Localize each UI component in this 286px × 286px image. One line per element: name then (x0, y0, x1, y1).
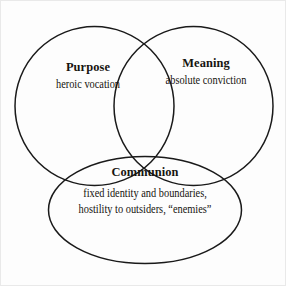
communion-title: Communion (53, 164, 237, 180)
purpose-label-group: Purpose heroic vocation (23, 59, 153, 91)
purpose-description: heroic vocation (30, 78, 147, 92)
communion-description-line-2: hostility to outsiders, “enemies” (55, 203, 235, 217)
meaning-circle-outline (114, 27, 273, 186)
venn-diagram-figure: Purpose heroic vocation Meaning absolute… (0, 0, 286, 286)
purpose-circle-outline (15, 27, 174, 186)
communion-label-group: Communion fixed identity and boundaries,… (45, 164, 245, 220)
meaning-label-group: Meaning absolute conviction (141, 55, 271, 87)
purpose-title: Purpose (28, 59, 148, 75)
meaning-title: Meaning (146, 55, 266, 71)
meaning-description: absolute conviction (148, 74, 265, 88)
venn-circles-graphic (1, 1, 286, 286)
communion-description-line-1: fixed identity and boundaries, (55, 187, 235, 201)
